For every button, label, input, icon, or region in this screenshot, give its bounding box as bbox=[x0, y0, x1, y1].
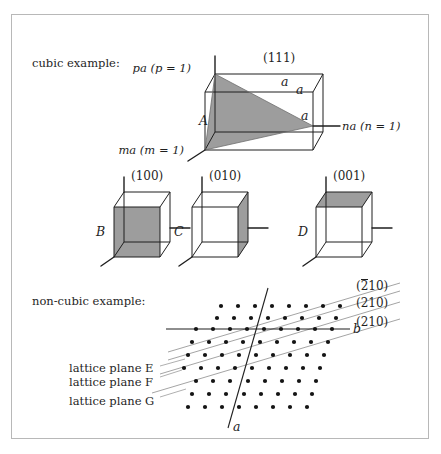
cubic-example-label: cubic example: bbox=[32, 58, 120, 70]
lattice-index-mid: (210) bbox=[356, 297, 388, 309]
noncubic-example-label: non-cubic example: bbox=[32, 296, 145, 308]
axis-p-label: pa (p = 1) bbox=[133, 63, 191, 75]
lattice-index-bottom: (210) bbox=[356, 316, 388, 328]
cube-c-letter: C bbox=[174, 226, 184, 239]
axis-m-label: ma (m = 1) bbox=[118, 145, 184, 157]
vertex-a-label: A bbox=[199, 115, 208, 128]
cube-d-index: (001) bbox=[333, 170, 365, 182]
cube-c-index: (010) bbox=[209, 170, 241, 182]
edge-a-right: a bbox=[301, 110, 308, 123]
edge-a-top-left: a bbox=[281, 76, 288, 89]
lattice-plane-e-label: lattice plane E bbox=[69, 363, 154, 375]
lattice-index-top: (210) bbox=[356, 279, 388, 292]
lattice-plane-g-label: lattice plane G bbox=[69, 396, 154, 408]
axis-n-label: na (n = 1) bbox=[342, 121, 401, 133]
cubic-plane-index: (111) bbox=[263, 52, 295, 64]
edge-a-top-right: a bbox=[296, 84, 303, 97]
axis-a-label: a bbox=[233, 421, 240, 434]
cube-d-letter: D bbox=[298, 226, 308, 239]
lattice-plane-f-label: lattice plane F bbox=[69, 377, 153, 389]
cube-b-index: (100) bbox=[131, 170, 163, 182]
cube-b-letter: B bbox=[96, 226, 105, 239]
index-overbar-digit: 2 bbox=[361, 279, 369, 292]
